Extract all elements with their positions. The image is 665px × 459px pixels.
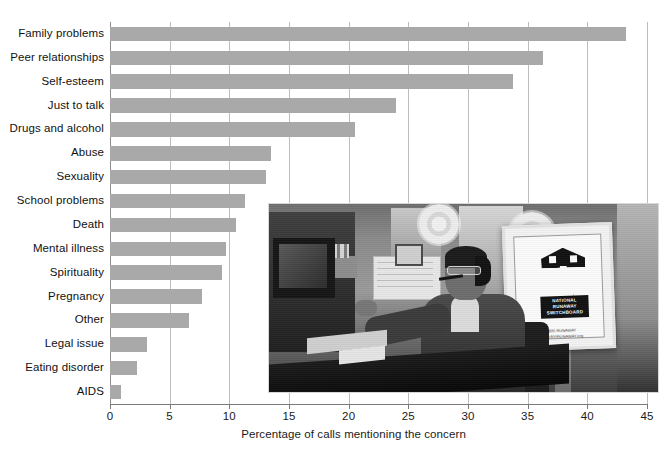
x-tick-label-30: 30	[461, 410, 474, 422]
bar-row	[110, 74, 647, 89]
bar-row	[110, 122, 647, 137]
photo-inset: NATIONAL RUNAWAY SWITCHBOARD 1-800-RUNAW…	[268, 203, 659, 393]
x-tick-label-0: 0	[107, 410, 114, 422]
x-axis-title: Percentage of calls mentioning the conce…	[0, 428, 665, 440]
bar	[110, 194, 245, 209]
category-label: Spirituality	[50, 266, 104, 278]
bar	[110, 98, 396, 113]
category-label: Other	[75, 313, 104, 325]
bar-row	[110, 146, 647, 161]
bar	[110, 146, 271, 161]
house-icon	[541, 247, 586, 269]
bar	[110, 361, 137, 376]
x-tick-label-40: 40	[581, 410, 594, 422]
category-label: Legal issue	[45, 337, 104, 349]
house-window-left-icon	[549, 256, 556, 263]
category-label: Family problems	[18, 27, 104, 39]
bar	[110, 51, 543, 66]
poster-line-3: SWITCHBOARD	[541, 309, 589, 316]
bar	[110, 313, 189, 328]
x-tick-25	[408, 404, 409, 409]
x-tick-10	[229, 404, 230, 409]
x-tick-label-20: 20	[342, 410, 355, 422]
x-tick-45	[647, 404, 648, 409]
x-tick-label-15: 15	[282, 410, 295, 422]
bar	[110, 242, 226, 257]
house-window-right-icon	[570, 255, 577, 262]
x-tick-label-25: 25	[402, 410, 415, 422]
category-label: Death	[73, 218, 104, 230]
bar	[110, 385, 121, 400]
bar-row	[110, 98, 647, 113]
x-tick-30	[468, 404, 469, 409]
photo-notice-board-notes	[377, 262, 433, 292]
photo-partition-right	[617, 204, 659, 393]
x-tick-label-10: 10	[223, 410, 236, 422]
bar	[110, 74, 513, 89]
category-label: Peer relationships	[10, 51, 104, 63]
x-axis-line	[110, 404, 648, 405]
bar	[110, 337, 147, 352]
category-label: Mental illness	[33, 242, 104, 254]
category-label: Drugs and alcohol	[10, 122, 104, 134]
x-tick-35	[528, 404, 529, 409]
photo-sunflower-left	[419, 204, 459, 244]
photo-monitor-screen	[279, 244, 327, 288]
bar-row	[110, 27, 647, 42]
x-tick-15	[289, 404, 290, 409]
bar-row	[110, 170, 647, 185]
bar	[110, 289, 202, 304]
photo-framed-picture	[395, 244, 423, 266]
category-label: Self-esteem	[42, 75, 104, 87]
bar	[110, 218, 236, 233]
bar-row	[110, 51, 647, 66]
bar	[110, 170, 266, 185]
photo-person-hand	[355, 300, 377, 316]
category-label: Just to talk	[48, 99, 104, 111]
glasses-icon	[447, 266, 481, 275]
x-tick-20	[349, 404, 350, 409]
bar	[110, 265, 222, 280]
x-tick-40	[587, 404, 588, 409]
category-label: School problems	[17, 194, 104, 206]
bar	[110, 122, 355, 137]
category-label: Sexuality	[56, 170, 104, 182]
x-tick-5	[170, 404, 171, 409]
x-tick-label-35: 35	[521, 410, 534, 422]
x-tick-label-45: 45	[640, 410, 653, 422]
chart-figure: Family problemsPeer relationshipsSelf-es…	[0, 0, 665, 459]
photo-person-shirt	[451, 296, 479, 332]
category-axis: Family problemsPeer relationshipsSelf-es…	[0, 22, 104, 404]
category-label: Eating disorder	[25, 361, 104, 373]
category-label: Abuse	[71, 146, 104, 158]
photo-poster-wordmark: NATIONAL RUNAWAY SWITCHBOARD	[540, 295, 589, 319]
bar	[110, 27, 626, 42]
category-label: AIDS	[77, 385, 104, 397]
x-tick-0	[110, 404, 111, 409]
x-tick-label-5: 5	[166, 410, 173, 422]
category-label: Pregnancy	[48, 290, 104, 302]
